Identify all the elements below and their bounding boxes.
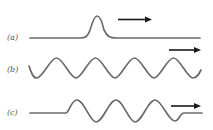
panel-label-a: (a) <box>7 34 18 42</box>
panel-label-c: (c) <box>7 109 18 117</box>
wave-diagram: (a) (b) (c) <box>0 0 213 130</box>
panel-label-b: (b) <box>7 66 18 74</box>
direction-arrow-c-icon <box>171 103 201 109</box>
continuous-wave-b <box>29 58 201 78</box>
wave-train-c <box>30 100 202 122</box>
direction-arrow-b-icon <box>169 47 201 53</box>
wave-drawing <box>0 0 213 130</box>
pulse-wave-a <box>30 16 200 38</box>
direction-arrow-a-icon <box>118 17 152 23</box>
